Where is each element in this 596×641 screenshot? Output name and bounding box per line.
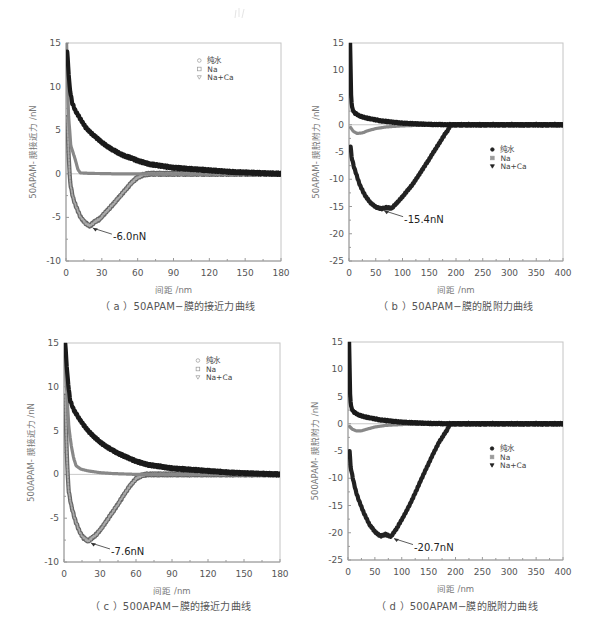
min-force-annotation: -6.0nN: [113, 231, 146, 242]
series-pure-water: [350, 43, 563, 125]
chart-panel-a: 0306090120150180-10-5051015间距 /nm50APAM-…: [0, 30, 298, 320]
x-tick-label: 150: [420, 567, 437, 577]
y-tick-label: 15: [48, 338, 59, 348]
series-na: [65, 352, 280, 475]
legend-label: 纯水: [500, 144, 515, 154]
y-tick-label: 10: [50, 82, 62, 92]
caption-d: （ d ）500APAM−膜的脱附力曲线: [376, 598, 538, 613]
y-tick-label: 15: [332, 337, 343, 347]
series-na-ca: [351, 124, 563, 209]
y-tick-label: 10: [332, 364, 344, 374]
legend-circle-marker-icon: [491, 148, 495, 152]
x-tick-label: 300: [501, 268, 518, 278]
y-tick-label: 10: [48, 382, 60, 392]
min-force-annotation: -15.4nN: [404, 214, 444, 225]
legend-triangle-marker-icon: [490, 165, 494, 169]
series-pure-water: [349, 342, 563, 424]
x-tick-label: 60: [130, 569, 142, 579]
y-tick-label: 5: [337, 392, 343, 402]
legend-circle-marker-icon: [490, 447, 494, 451]
y-tick-label: -5: [52, 212, 61, 222]
legend-label: 纯水: [500, 443, 515, 453]
x-axis-label: 间距 /nm: [437, 285, 474, 295]
legend: 纯水NaNa+Ca: [490, 144, 526, 171]
legend-label: Na+Ca: [206, 373, 232, 382]
y-tick-label: -20: [329, 229, 344, 239]
legend-circle-marker-icon: [198, 59, 202, 63]
series-group: [350, 43, 563, 209]
min-force-annotation: -20.7nN: [414, 542, 454, 553]
x-axis-label: 间距 /nm: [155, 285, 192, 295]
x-tick-label: 30: [96, 268, 108, 278]
y-tick-label: 5: [55, 125, 61, 135]
chart-c-svg: 0306090120150180-10-5051015间距 /nm500APAM…: [0, 330, 298, 620]
legend-label: Na+Ca: [207, 73, 233, 82]
x-tick-label: 400: [554, 567, 571, 577]
series-group: [65, 343, 280, 541]
legend-square-marker-icon: [490, 455, 494, 459]
y-axis-label: 500APAM- 膜接近力 /nN: [26, 403, 36, 502]
x-tick-label: 0: [61, 569, 67, 579]
x-tick-label: 150: [421, 268, 438, 278]
y-tick-label: 0: [337, 419, 343, 429]
y-tick-label: -15: [329, 202, 344, 212]
series-group: [349, 342, 563, 537]
y-tick-label: 15: [333, 38, 344, 48]
legend-square-marker-icon: [196, 367, 200, 371]
x-tick-label: 50: [370, 268, 382, 278]
plot-frame: [64, 343, 280, 562]
x-tick-label: 150: [237, 268, 254, 278]
legend-label: 纯水: [207, 55, 222, 65]
legend-triangle-marker-icon: [196, 376, 200, 380]
x-tick-label: 250: [474, 268, 491, 278]
y-tick-label: -5: [334, 446, 343, 456]
x-tick-label: 350: [528, 268, 545, 278]
y-tick-label: -5: [335, 147, 344, 157]
chart-a-svg: 0306090120150180-10-5051015间距 /nm50APAM-…: [0, 30, 298, 320]
x-tick-label: 50: [369, 567, 381, 577]
x-tick-label: 90: [166, 569, 178, 579]
legend-square-marker-icon: [491, 156, 495, 160]
plot-frame: [349, 43, 563, 261]
x-tick-label: 180: [272, 268, 289, 278]
y-axis-label: 50APAM- 膜脱附力 /nN: [311, 105, 321, 198]
chart-panel-d: 050100150200250300350400-25-20-15-10-505…: [298, 330, 596, 620]
legend-label: 纯水: [206, 355, 221, 365]
series-pure-water: [65, 343, 280, 475]
x-tick-label: 350: [528, 567, 545, 577]
legend-label: Na+Ca: [500, 162, 526, 171]
x-axis-label: 间距 /nm: [437, 584, 474, 594]
x-tick-label: 400: [554, 268, 571, 278]
legend-triangle-marker-icon: [490, 464, 494, 468]
chart-panel-c: 0306090120150180-10-5051015间距 /nm500APAM…: [0, 330, 298, 620]
x-tick-label: 120: [199, 569, 216, 579]
y-axis-label: 50APAM- 膜接近力 /nN: [28, 105, 38, 198]
x-tick-label: 90: [168, 268, 180, 278]
plot-frame: [348, 342, 563, 560]
x-tick-label: 200: [447, 268, 464, 278]
min-force-annotation: -7.6nN: [111, 546, 144, 557]
x-tick-label: 100: [393, 567, 410, 577]
caption-a: （ a ）50APAM−膜的接近力曲线: [100, 298, 255, 313]
x-tick-label: 0: [346, 268, 352, 278]
y-tick-label: -25: [329, 256, 344, 266]
y-tick-label: -25: [328, 555, 343, 565]
y-axis-label: 500APAM- 膜脱附力 /nN: [310, 402, 320, 501]
y-tick-label: 0: [53, 469, 59, 479]
y-tick-label: 15: [50, 38, 61, 48]
y-tick-label: -15: [328, 501, 343, 511]
y-tick-label: 10: [333, 65, 345, 75]
caption-c: （ c ）500APAM−膜的接近力曲线: [90, 598, 251, 613]
legend-circle-marker-icon: [196, 359, 200, 363]
x-tick-label: 0: [63, 268, 69, 278]
y-tick-label: -10: [46, 256, 61, 266]
y-tick-label: -10: [328, 473, 343, 483]
x-tick-label: 150: [235, 569, 252, 579]
legend: 纯水NaNa+Ca: [490, 443, 526, 470]
x-tick-label: 0: [345, 567, 351, 577]
x-tick-label: 300: [501, 567, 518, 577]
legend: 纯水NaNa+Ca: [196, 355, 232, 382]
x-axis-label: 间距 /nm: [153, 586, 190, 596]
x-tick-label: 200: [447, 567, 464, 577]
x-tick-label: 180: [271, 569, 288, 579]
